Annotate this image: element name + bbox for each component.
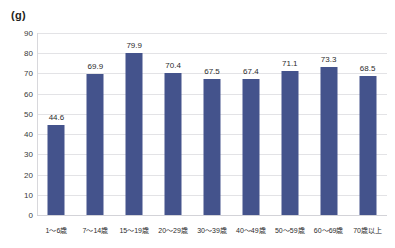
bar-slot: 67.4 <box>231 33 270 215</box>
bar[interactable] <box>48 125 65 215</box>
bar-value-label: 67.4 <box>243 67 259 76</box>
x-category-label: 1～6歳 <box>46 225 68 235</box>
bar[interactable] <box>203 79 220 216</box>
y-tick-label: 20 <box>3 170 33 179</box>
y-tick-label: 90 <box>3 29 33 38</box>
y-tick-label: 30 <box>3 150 33 159</box>
bar[interactable] <box>320 67 337 215</box>
bar-slot: 70.4 <box>154 33 193 215</box>
x-axis-category-labels: 1～6歳7～14歳15～19歳20～29歳30～39歳40～49歳50～59歳6… <box>37 225 387 243</box>
bar-slot: 71.1 <box>270 33 309 215</box>
bar[interactable] <box>87 74 104 215</box>
bar-value-label: 70.4 <box>165 61 181 70</box>
bar-slot: 44.6 <box>37 33 76 215</box>
x-category-label: 15～19歳 <box>119 225 149 235</box>
bar-value-label: 44.6 <box>49 113 65 122</box>
bar-slot: 69.9 <box>76 33 115 215</box>
x-category-label: 70歳以上 <box>353 225 382 235</box>
bar-slot: 79.9 <box>115 33 154 215</box>
y-tick-label: 50 <box>3 109 33 118</box>
bar-chart: (g) 0102030405060708090 44.669.979.970.4… <box>0 0 395 248</box>
x-category-label: 20～29歳 <box>158 225 188 235</box>
bar-value-label: 73.3 <box>321 55 337 64</box>
x-category-label: 50～59歳 <box>275 225 305 235</box>
bar[interactable] <box>242 79 259 215</box>
bar-value-label: 71.1 <box>282 59 298 68</box>
bar[interactable] <box>126 53 143 215</box>
bar-value-label: 67.5 <box>204 67 220 76</box>
x-category-label: 40～49歳 <box>236 225 266 235</box>
bar-value-label: 69.9 <box>88 62 104 71</box>
x-category-label: 30～39歳 <box>197 225 227 235</box>
y-tick-label: 60 <box>3 89 33 98</box>
bar-slot: 73.3 <box>309 33 348 215</box>
bar-value-label: 79.9 <box>126 41 142 50</box>
bar[interactable] <box>359 76 376 215</box>
bars-layer: 44.669.979.970.467.567.471.173.368.5 <box>37 33 387 215</box>
bar-value-label: 68.5 <box>360 64 376 73</box>
y-tick-label: 0 <box>3 211 33 220</box>
bar[interactable] <box>281 71 298 215</box>
x-category-label: 60～69歳 <box>314 225 344 235</box>
bar[interactable] <box>165 73 182 215</box>
y-tick-label: 80 <box>3 49 33 58</box>
y-axis-tick-labels: 0102030405060708090 <box>0 33 33 215</box>
y-tick-label: 70 <box>3 69 33 78</box>
y-axis-unit-label: (g) <box>11 9 26 21</box>
bar-slot: 67.5 <box>193 33 232 215</box>
y-tick-label: 10 <box>3 190 33 199</box>
x-category-label: 7～14歳 <box>82 225 108 235</box>
x-axis-baseline <box>37 215 387 216</box>
bar-slot: 68.5 <box>348 33 387 215</box>
y-tick-label: 40 <box>3 130 33 139</box>
